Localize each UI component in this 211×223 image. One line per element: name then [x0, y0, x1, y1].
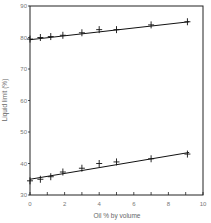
data-point-plus-icon [48, 173, 54, 180]
y-tick-label: 40 [20, 161, 27, 167]
series-upper [27, 18, 190, 42]
liquid-limit-chart: 30405060708090 0246810 Oil % by volume L… [0, 0, 211, 223]
y-tick-label: 30 [20, 192, 27, 198]
data-point-plus-icon [114, 26, 120, 33]
data-point-plus-icon [60, 32, 66, 39]
x-tick-label: 8 [167, 201, 171, 207]
trend-line [30, 152, 189, 179]
plot-border [30, 6, 203, 195]
x-tick-label: 6 [132, 201, 136, 207]
x-tick-label: 10 [200, 201, 207, 207]
data-point-plus-icon [148, 21, 154, 28]
data-point-plus-icon [48, 33, 54, 40]
x-tick-label: 2 [63, 201, 67, 207]
y-axis: 30405060708090 [20, 3, 30, 198]
data-series [27, 18, 190, 184]
x-tick-label: 0 [28, 201, 32, 207]
y-tick-label: 80 [20, 35, 27, 41]
data-point-plus-icon [27, 177, 33, 184]
series-lower [27, 151, 190, 185]
data-point-plus-icon [27, 36, 33, 43]
data-point-plus-icon [184, 151, 190, 158]
y-axis-title: Liquid limit (%) [1, 79, 9, 122]
trend-line [30, 22, 189, 40]
x-tick-label: 4 [98, 201, 102, 207]
x-axis-title: Oil % by volume [94, 212, 141, 220]
data-point-plus-icon [37, 34, 43, 41]
data-point-plus-icon [79, 29, 85, 36]
x-axis: 0246810 [28, 192, 207, 207]
plot-frame [30, 6, 203, 195]
data-point-plus-icon [96, 160, 102, 167]
y-tick-label: 90 [20, 3, 27, 9]
y-tick-label: 70 [20, 66, 27, 72]
y-tick-label: 50 [20, 129, 27, 135]
y-tick-label: 60 [20, 98, 27, 104]
data-point-plus-icon [184, 18, 190, 25]
data-point-plus-icon [148, 155, 154, 162]
